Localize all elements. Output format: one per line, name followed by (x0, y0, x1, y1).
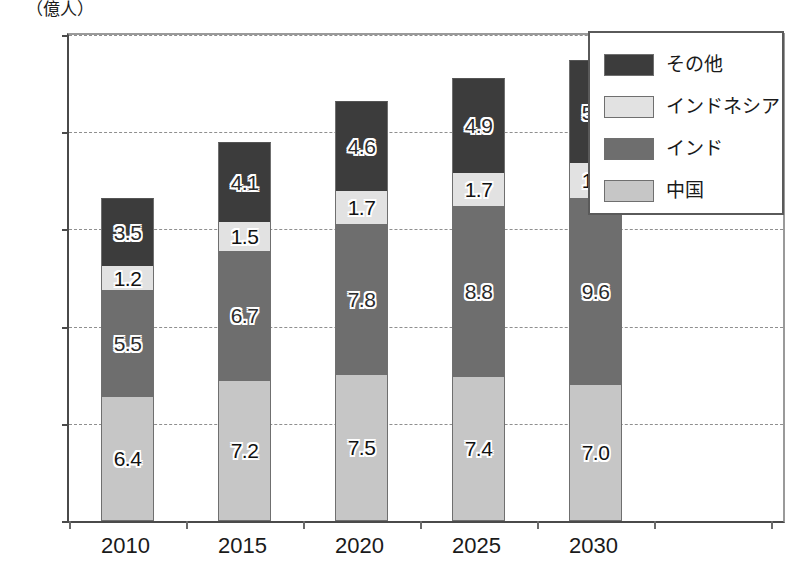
y-axis-tick-mark (62, 35, 69, 37)
bar-value-label: 1.2 (114, 268, 142, 289)
y-axis-tick-mark (62, 327, 69, 329)
bar-segment[interactable]: 7.5 (335, 375, 388, 521)
legend-color-swatch (604, 180, 654, 202)
legend-item-label: その他 (666, 55, 723, 75)
y-axis-tick-mark (62, 424, 69, 426)
x-axis-tick-mark (771, 521, 773, 529)
legend-item-label: インドネシア (666, 97, 780, 117)
legend-color-swatch (604, 96, 654, 118)
bar-segment[interactable]: 3.5 (101, 198, 154, 266)
bar-segment[interactable]: 1.5 (218, 222, 271, 251)
legend-item[interactable]: 中国 (604, 170, 782, 212)
bar-segment[interactable]: 8.8 (452, 206, 505, 377)
legend-item-label: 中国 (666, 181, 704, 201)
legend-color-swatch (604, 54, 654, 76)
bar-segment[interactable]: 4.6 (335, 101, 388, 190)
bar-segment[interactable]: 5.5 (101, 290, 154, 397)
bar-value-label: 7.5 (348, 437, 376, 458)
bar-stack-2010[interactable]: 3.51.25.56.4 (101, 198, 154, 521)
x-axis-tick-label: 2015 (183, 534, 303, 558)
bar-value-label: 4.9 (465, 115, 493, 136)
bar-segment[interactable]: 4.1 (218, 142, 271, 222)
y-axis-tick-mark (62, 521, 69, 523)
bar-stack-2025[interactable]: 4.91.78.87.4 (452, 78, 505, 521)
chart-legend: その他インドネシアインド中国 (588, 31, 784, 215)
bar-stack-2015[interactable]: 4.11.56.77.2 (218, 142, 271, 521)
y-axis-tick-mark (62, 229, 69, 231)
gridline (69, 229, 783, 230)
bar-segment[interactable]: 4.9 (452, 78, 505, 173)
bar-segment[interactable]: 7.0 (569, 385, 622, 521)
x-axis-tick-mark (69, 521, 71, 529)
bar-segment[interactable]: 6.4 (101, 397, 154, 521)
x-axis-tick-mark (303, 521, 305, 529)
bar-value-label: 7.4 (465, 438, 493, 459)
bar-value-label: 7.0 (582, 442, 610, 463)
stacked-bar-chart: （億人） 0.05.010.015.020.025.0 3.51.25.56.4… (0, 0, 796, 567)
page-edge-artifact (0, 562, 796, 567)
bar-value-label: 6.7 (231, 305, 259, 326)
bar-value-label: 4.1 (231, 172, 259, 193)
x-axis-tick-label: 2030 (534, 534, 654, 558)
x-axis-tick-mark (537, 521, 539, 529)
x-axis-tick-mark (654, 521, 656, 529)
gridline (69, 327, 783, 328)
bar-value-label: 5.5 (114, 333, 142, 354)
legend-item[interactable]: インド (604, 128, 782, 170)
bar-value-label: 7.8 (348, 289, 376, 310)
legend-item-label: インド (666, 139, 723, 159)
x-axis-tick-mark (186, 521, 188, 529)
bar-value-label: 1.5 (231, 226, 259, 247)
x-axis-tick-label: 2025 (417, 534, 537, 558)
bar-segment[interactable]: 1.7 (452, 173, 505, 206)
bar-segment[interactable]: 1.7 (335, 191, 388, 224)
bar-segment[interactable]: 9.6 (569, 198, 622, 385)
bar-stack-2020[interactable]: 4.61.77.87.5 (335, 101, 388, 521)
bar-segment[interactable]: 7.2 (218, 381, 271, 521)
gridline (69, 424, 783, 425)
bar-segment[interactable]: 1.2 (101, 266, 154, 289)
bar-value-label: 6.4 (114, 448, 142, 469)
legend-color-swatch (604, 138, 654, 160)
y-axis-tick-mark (62, 132, 69, 134)
legend-item[interactable]: その他 (604, 44, 782, 86)
bar-value-label: 7.2 (231, 440, 259, 461)
x-axis-tick-label: 2010 (66, 534, 186, 558)
bar-segment[interactable]: 7.8 (335, 224, 388, 376)
bar-value-label: 1.7 (348, 197, 376, 218)
bar-value-label: 3.5 (114, 222, 142, 243)
bar-value-label: 4.6 (348, 136, 376, 157)
x-axis-tick-mark (420, 521, 422, 529)
bar-value-label: 9.6 (582, 281, 610, 302)
x-axis-tick-label: 2020 (300, 534, 420, 558)
legend-item[interactable]: インドネシア (604, 86, 782, 128)
bar-segment[interactable]: 7.4 (452, 377, 505, 521)
bar-value-label: 1.7 (465, 179, 493, 200)
bar-segment[interactable]: 6.7 (218, 251, 271, 381)
y-axis-unit-label: （億人） (26, 0, 94, 20)
bar-value-label: 8.8 (465, 281, 493, 302)
